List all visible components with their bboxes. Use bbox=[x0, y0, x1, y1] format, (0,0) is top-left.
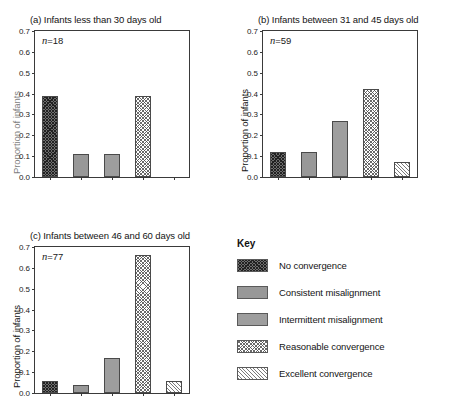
legend-item: Consistent misalignment bbox=[237, 279, 452, 306]
panel-b-n-value: =59 bbox=[275, 35, 291, 46]
panel-b-y-tick bbox=[260, 94, 263, 95]
panel-a-x-tick bbox=[81, 177, 82, 180]
legend-entries: No convergenceConsistent misalignmentInt… bbox=[237, 252, 452, 387]
panel-a-y-tick-label: 0.1 bbox=[19, 152, 30, 161]
panel-a-n-value: =18 bbox=[47, 35, 63, 46]
panel-b-y-tick-label: 0.1 bbox=[247, 152, 258, 161]
panel-b-x-tick bbox=[340, 177, 341, 180]
legend-item: Excellent convergence bbox=[237, 360, 452, 387]
bar-b-3 bbox=[332, 121, 348, 177]
panel-b-x-tick bbox=[309, 177, 310, 180]
panel-c-y-tick-label: 0.6 bbox=[19, 263, 30, 272]
panel-c-plot-area: n=77 0.00.10.20.30.40.50.60.7 bbox=[34, 246, 190, 394]
legend-item: No convergence bbox=[237, 252, 452, 279]
panel-b-y-tick-label: 0.0 bbox=[247, 173, 258, 182]
panel-b-y-tick-label: 0.7 bbox=[247, 27, 258, 36]
panel-c-y-tick-label: 0.1 bbox=[19, 368, 30, 377]
legend-swatch-4 bbox=[237, 340, 268, 353]
panel-b-x-tick bbox=[402, 177, 403, 180]
panel-b-y-tick bbox=[260, 31, 263, 32]
legend-label: Consistent misalignment bbox=[279, 287, 380, 298]
panel-c-y-tick bbox=[32, 310, 35, 311]
panel-a-y-tick bbox=[32, 31, 35, 32]
bar-c-1 bbox=[42, 381, 58, 394]
panel-b-y-tick bbox=[260, 177, 263, 178]
panel-c-y-tick bbox=[32, 393, 35, 394]
legend: Key No convergenceConsistent misalignmen… bbox=[237, 238, 452, 387]
panel-b-y-tick-label: 0.5 bbox=[247, 68, 258, 77]
panel-b-y-tick bbox=[260, 73, 263, 74]
legend-title: Key bbox=[237, 238, 452, 249]
bar-b-4 bbox=[363, 89, 379, 177]
panel-a-y-tick bbox=[32, 114, 35, 115]
panel-b-y-tick-label: 0.3 bbox=[247, 110, 258, 119]
bar-a-2 bbox=[73, 154, 89, 177]
panel-b-plot-area: n=59 0.00.10.20.30.40.50.60.7 bbox=[262, 30, 418, 178]
panel-c-y-tick-label: 0.7 bbox=[19, 243, 30, 252]
panel-b-y-tick bbox=[260, 135, 263, 136]
bar-b-5 bbox=[394, 162, 410, 177]
panel-b-x-tick bbox=[371, 177, 372, 180]
panel-c-y-tick-label: 0.0 bbox=[19, 389, 30, 398]
panel-c-y-tick bbox=[32, 372, 35, 373]
panel-a-y-tick bbox=[32, 94, 35, 95]
panel-b-y-tick-label: 0.4 bbox=[247, 89, 258, 98]
panel-a-x-tick bbox=[174, 177, 175, 180]
panel-a-y-tick-label: 0.6 bbox=[19, 47, 30, 56]
panel-b-sample-size: n=59 bbox=[270, 35, 291, 46]
bar-b-2 bbox=[301, 152, 317, 177]
panel-a-y-tick bbox=[32, 73, 35, 74]
panel-c-y-tick bbox=[32, 330, 35, 331]
bar-c-3 bbox=[104, 358, 120, 393]
panel-c-y-tick-label: 0.5 bbox=[19, 284, 30, 293]
panel-a-y-tick-label: 0.3 bbox=[19, 110, 30, 119]
panel-a-y-tick bbox=[32, 156, 35, 157]
panel-b: (b) Infants between 31 and 45 days old P… bbox=[228, 14, 459, 194]
legend-label: No convergence bbox=[279, 260, 347, 271]
panel-b-title: (b) Infants between 31 and 45 days old bbox=[258, 14, 418, 25]
panel-c-sample-size: n=77 bbox=[42, 251, 63, 262]
panel-b-y-tick bbox=[260, 52, 263, 53]
panel-a-x-tick bbox=[112, 177, 113, 180]
panel-a-title: (a) Infants less than 30 days old bbox=[30, 14, 161, 25]
legend-label: Reasonable convergence bbox=[279, 341, 385, 352]
panel-a-y-tick-label: 0.2 bbox=[19, 131, 30, 140]
panel-b-y-tick-label: 0.6 bbox=[247, 47, 258, 56]
panel-a-y-tick bbox=[32, 135, 35, 136]
legend-label: Excellent convergence bbox=[279, 368, 373, 379]
bar-c-5 bbox=[166, 381, 182, 394]
legend-swatch-1 bbox=[237, 259, 268, 272]
panel-b-y-tick bbox=[260, 114, 263, 115]
panel-c-y-tick-label: 0.2 bbox=[19, 347, 30, 356]
legend-swatch-2 bbox=[237, 286, 268, 299]
panel-a-y-tick-label: 0.5 bbox=[19, 68, 30, 77]
bar-a-3 bbox=[104, 154, 120, 177]
panel-a-y-tick-label: 0.7 bbox=[19, 27, 30, 36]
panel-c-x-tick bbox=[143, 393, 144, 396]
legend-swatch-5 bbox=[237, 367, 268, 380]
legend-item: Reasonable convergence bbox=[237, 333, 452, 360]
bar-a-1 bbox=[42, 96, 58, 177]
panel-c-title: (c) Infants between 46 and 60 days old bbox=[30, 230, 190, 241]
panel-c-x-tick bbox=[174, 393, 175, 396]
bar-c-4 bbox=[135, 255, 151, 393]
panel-c: (c) Infants between 46 and 60 days old P… bbox=[0, 230, 225, 404]
panel-c-x-tick bbox=[81, 393, 82, 396]
bar-b-1 bbox=[270, 152, 286, 177]
bar-c-2 bbox=[73, 385, 89, 393]
panel-a-y-tick-label: 0.0 bbox=[19, 173, 30, 182]
panel-c-y-tick bbox=[32, 351, 35, 352]
panel-c-y-tick bbox=[32, 289, 35, 290]
legend-swatch-3 bbox=[237, 313, 268, 326]
panel-c-n-value: =77 bbox=[47, 251, 63, 262]
panel-a-plot-area: n=18 0.00.10.20.30.40.50.60.7 bbox=[34, 30, 190, 178]
legend-item: Intermittent misalignment bbox=[237, 306, 452, 333]
panel-c-y-tick-label: 0.3 bbox=[19, 326, 30, 335]
panel-b-y-tick-label: 0.2 bbox=[247, 131, 258, 140]
panel-c-x-tick bbox=[50, 393, 51, 396]
panel-c-y-tick bbox=[32, 247, 35, 248]
panel-b-x-tick bbox=[278, 177, 279, 180]
panel-a-sample-size: n=18 bbox=[42, 35, 63, 46]
panel-a: (a) Infants less than 30 days old Propor… bbox=[0, 14, 225, 194]
panel-c-y-tick-label: 0.4 bbox=[19, 305, 30, 314]
